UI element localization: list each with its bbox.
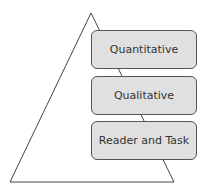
level-box-reader-and-task: Reader and Task — [91, 121, 197, 160]
level-label: Quantitative — [110, 43, 178, 56]
level-label: Qualitative — [114, 89, 174, 102]
level-box-qualitative: Qualitative — [91, 76, 197, 115]
pyramid-diagram: Quantitative Qualitative Reader and Task — [0, 0, 210, 192]
level-label: Reader and Task — [99, 134, 189, 147]
level-box-quantitative: Quantitative — [91, 30, 197, 69]
